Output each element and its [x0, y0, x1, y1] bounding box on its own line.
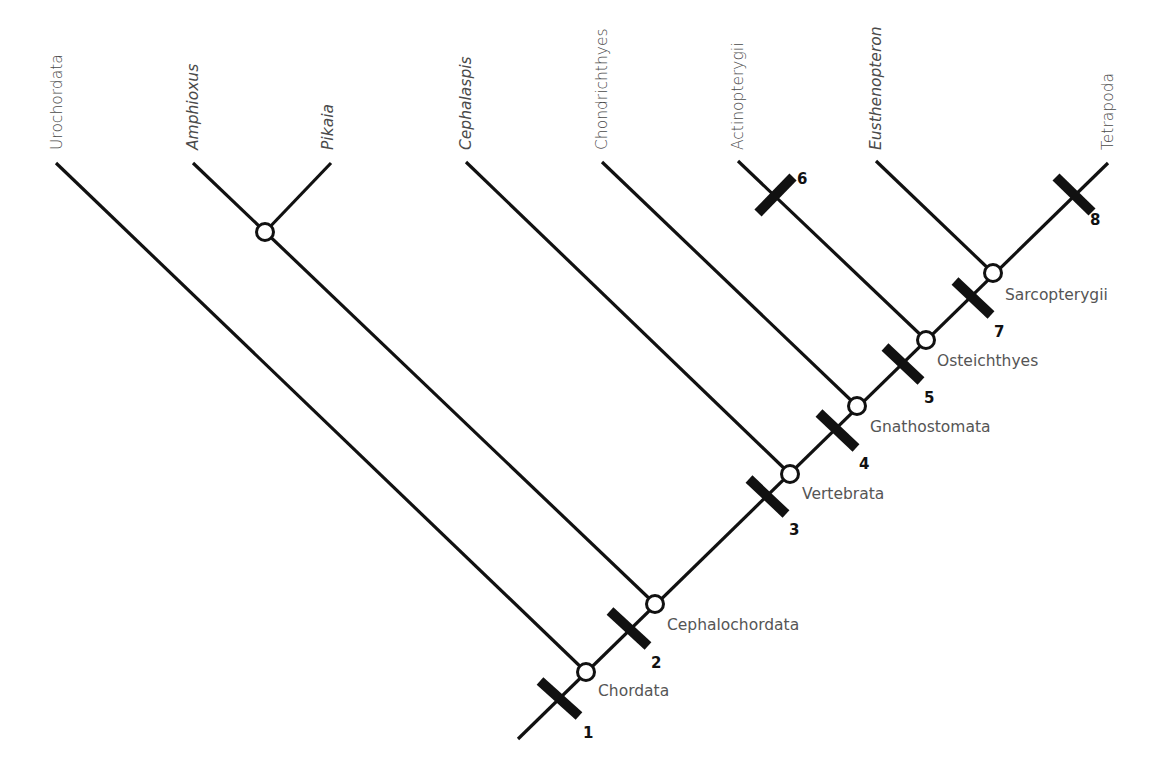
character-bar-7 — [955, 281, 991, 315]
branch-eusthenopteron — [876, 161, 993, 273]
clade-label-gnathostomata: Gnathostomata — [870, 418, 991, 436]
node-osteichthyes — [918, 332, 935, 349]
node-vertebrata — [782, 466, 799, 483]
node-gnathostomata — [849, 398, 866, 415]
taxon-label-chondrichthyes: Chondrichthyes — [593, 28, 611, 150]
taxon-label-tetrapoda: Tetrapoda — [1099, 73, 1117, 150]
taxon-label-urochordata: Urochordata — [48, 54, 66, 150]
node-sarcopterygii — [985, 265, 1002, 282]
taxon-label-pikaia: Pikaia — [319, 104, 337, 150]
branch-urochordata — [56, 163, 586, 672]
character-label-5: 5 — [924, 389, 934, 407]
character-label-8: 8 — [1090, 211, 1100, 229]
node-pikaia-amphioxus — [257, 224, 274, 241]
character-label-2: 2 — [651, 654, 661, 672]
clade-label-osteichthyes: Osteichthyes — [937, 352, 1038, 370]
node-cephalochordata — [647, 596, 664, 613]
clade-label-cephalochordata: Cephalochordata — [667, 616, 799, 634]
branches — [56, 161, 1108, 739]
branch-chondrichthyes — [602, 162, 857, 406]
character-label-4: 4 — [859, 455, 869, 473]
clade-label-vertebrata: Vertebrata — [802, 485, 884, 503]
character-label-1: 1 — [583, 724, 593, 742]
clade-nodes — [257, 224, 1002, 681]
cladogram: UrochordataAmphioxusPikaiaCephalaspisCho… — [0, 0, 1161, 775]
taxon-label-cephalaspis: Cephalaspis — [457, 56, 475, 150]
branch-cephalaspis — [466, 162, 790, 474]
taxon-label-actinopterygii: Actinopterygii — [729, 43, 747, 150]
node-chordata — [578, 664, 595, 681]
branch-pikaia — [265, 163, 331, 232]
character-label-3: 3 — [789, 521, 799, 539]
character-label-7: 7 — [994, 323, 1004, 341]
clade-label-sarcopterygii: Sarcopterygii — [1005, 286, 1108, 304]
taxon-label-amphioxus: Amphioxus — [184, 64, 202, 151]
character-bar-4 — [819, 413, 856, 448]
labels: UrochordataAmphioxusPikaiaCephalaspisCho… — [48, 26, 1117, 742]
clade-label-chordata: Chordata — [598, 682, 669, 700]
branch-actinopterygii — [738, 161, 926, 340]
taxon-label-eusthenopteron: Eusthenopteron — [867, 26, 885, 150]
character-label-6: 6 — [797, 170, 807, 188]
main-stem — [518, 163, 1108, 739]
